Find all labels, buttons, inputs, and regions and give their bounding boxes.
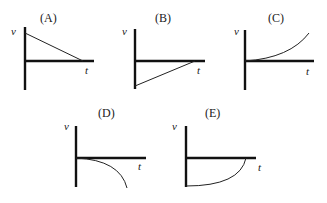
t-axis-label: t bbox=[306, 65, 310, 77]
v-axis-label: v bbox=[234, 25, 239, 37]
graph-b: (B) v t bbox=[122, 11, 205, 89]
velocity-curve bbox=[186, 158, 246, 186]
velocity-line bbox=[25, 33, 83, 61]
velocity-line bbox=[135, 61, 195, 86]
t-axis-label: t bbox=[258, 161, 262, 173]
velocity-curve bbox=[245, 33, 309, 61]
graph-c: (C) v t bbox=[234, 11, 314, 90]
graph-label-d: (D) bbox=[98, 106, 115, 120]
t-axis-label: t bbox=[85, 64, 89, 76]
graph-label-a: (A) bbox=[40, 11, 57, 25]
graph-e: (E) v t bbox=[172, 106, 262, 187]
graph-label-b: (B) bbox=[155, 11, 171, 25]
graph-label-c: (C) bbox=[268, 11, 284, 25]
velocity-curve bbox=[76, 158, 127, 188]
t-axis-label: t bbox=[197, 64, 201, 76]
v-axis-label: v bbox=[122, 25, 127, 37]
t-axis-label: t bbox=[138, 160, 142, 172]
graph-a: (A) v t bbox=[11, 11, 94, 90]
graph-label-e: (E) bbox=[205, 106, 220, 120]
v-axis-label: v bbox=[11, 25, 16, 37]
graph-d: (D) v t bbox=[64, 106, 146, 188]
v-axis-label: v bbox=[64, 120, 69, 132]
velocity-time-graphs: (A) v t (B) v t (C) v t (D) v t (E) v t bbox=[0, 0, 327, 203]
v-axis-label: v bbox=[172, 120, 177, 132]
